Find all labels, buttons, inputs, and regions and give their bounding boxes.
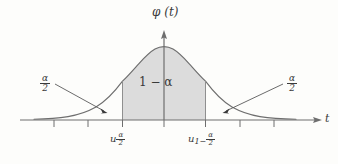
leader-line: [55, 84, 104, 111]
right-tail-denominator: 2: [287, 84, 297, 93]
x-axis-label: t: [325, 113, 329, 124]
left-tail-denominator: 2: [40, 84, 50, 93]
right-tail-leader: [223, 84, 284, 113]
upper-quantile-sub-denominator: 2: [206, 140, 215, 147]
leader-arrowhead-icon: [101, 109, 108, 114]
left-tail-alpha-label: α 2: [40, 74, 50, 94]
confidence-level-label: 1 − α: [139, 76, 172, 88]
normal-distribution-figure: φ (t) t 1 − α α 2 α 2 u α 2 u1− α 2: [0, 0, 338, 164]
lower-quantile-subscript-fraction: α 2: [116, 132, 125, 148]
right-tail-fraction: α 2: [287, 74, 297, 94]
left-tail-fraction: α 2: [40, 74, 50, 94]
right-tail-alpha-label: α 2: [287, 74, 297, 94]
y-axis-label: φ (t): [152, 6, 178, 18]
left-tail-leader: [55, 84, 108, 113]
axis-tick-marks: [54, 120, 274, 127]
leader-line: [226, 84, 283, 111]
upper-quantile-tick-label: u1− α 2: [188, 132, 215, 148]
leader-arrowhead-icon: [223, 109, 230, 114]
upper-quantile-sub-prefix: 1−: [194, 137, 206, 146]
lower-quantile-sub-denominator: 2: [116, 140, 125, 147]
lower-quantile-tick-label: u α 2: [110, 132, 125, 148]
upper-quantile-subscript-fraction: α 2: [206, 132, 215, 148]
